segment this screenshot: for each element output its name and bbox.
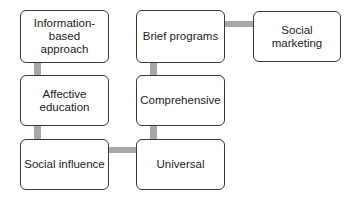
node-brief-programs: Brief programs — [136, 10, 225, 63]
connector-affective-social-influence — [34, 126, 41, 139]
node-universal: Universal — [136, 139, 225, 190]
connector-info-affective — [34, 63, 41, 75]
connector-universal-comprehensive — [150, 126, 157, 139]
connector-social-influence-universal — [108, 147, 136, 153]
connector-brief-social-marketing — [225, 21, 253, 27]
prevention-approaches-diagram: Information- based approach Affective ed… — [0, 0, 353, 201]
node-comprehensive: Comprehensive — [136, 75, 225, 126]
node-affective-education: Affective education — [20, 75, 109, 126]
connector-comprehensive-brief — [150, 63, 157, 75]
node-social-influence: Social influence — [20, 139, 109, 190]
node-information-based-approach: Information- based approach — [20, 10, 109, 63]
node-social-marketing: Social marketing — [253, 11, 341, 62]
